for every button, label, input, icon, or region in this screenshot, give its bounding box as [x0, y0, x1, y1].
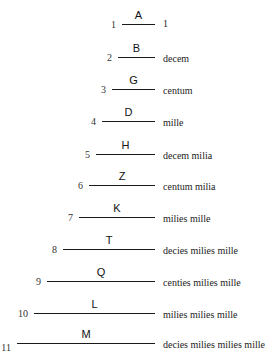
row-line: [102, 121, 155, 122]
row-index: 8: [37, 245, 57, 255]
row-line: [34, 313, 155, 314]
row-letter: B: [133, 43, 140, 54]
row-letter: Q: [97, 267, 106, 278]
row-index: 6: [63, 181, 83, 191]
row-letter: D: [125, 107, 133, 118]
row-line: [118, 57, 155, 58]
row-name: decies milies milies mille: [163, 340, 265, 350]
row-letter: G: [129, 75, 138, 86]
row-index: 2: [92, 53, 112, 63]
row-line: [63, 249, 155, 250]
row-line: [89, 185, 155, 186]
row-index: 5: [70, 150, 90, 160]
row-letter: Z: [119, 171, 126, 182]
row-line: [96, 154, 155, 155]
row-name: centum: [163, 86, 192, 96]
row-index: 1: [96, 20, 116, 30]
row-name: decem milia: [163, 151, 212, 161]
row-letter: A: [135, 10, 142, 21]
row-line: [112, 89, 155, 90]
row-index: 11: [0, 343, 11, 353]
row-index: 3: [86, 85, 106, 95]
row-name: centum milia: [163, 182, 216, 192]
row-letter: L: [91, 299, 97, 310]
row-name: centies milies mille: [163, 278, 241, 288]
row-name: mille: [163, 118, 184, 128]
row-line: [122, 24, 155, 25]
row-name: milies mille: [163, 214, 211, 224]
diagram-row: 11 M decies milies milies mille: [0, 0, 276, 1]
row-letter: H: [122, 140, 130, 151]
row-line: [47, 281, 155, 282]
row-name: 1: [163, 19, 168, 29]
row-letter: T: [106, 235, 113, 246]
row-name: decies milies mille: [163, 246, 238, 256]
row-line: [79, 217, 155, 218]
row-line: [17, 343, 155, 344]
row-name: decem: [163, 54, 189, 64]
row-index: 9: [21, 277, 41, 287]
row-index: 10: [8, 309, 28, 319]
row-name: milies milies mille: [163, 310, 237, 320]
row-index: 4: [76, 117, 96, 127]
row-index: 7: [53, 213, 73, 223]
row-letter: K: [113, 203, 120, 214]
row-letter: M: [81, 329, 90, 340]
